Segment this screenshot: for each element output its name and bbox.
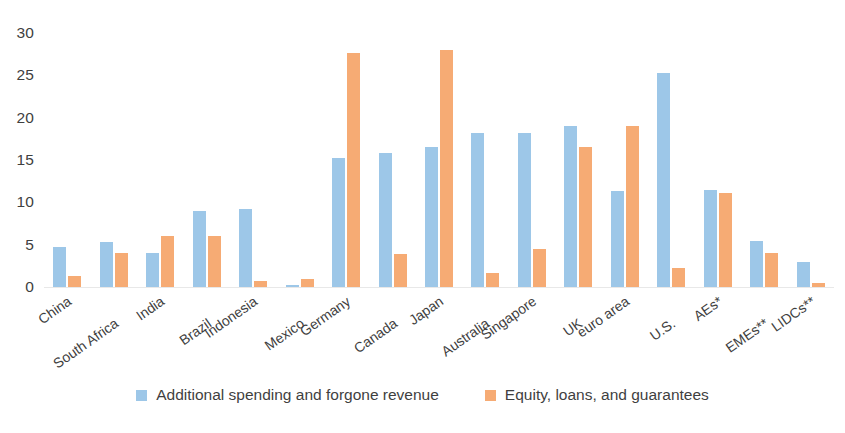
bar-chart: 051015202530 ChinaSouth AfricaIndiaBrazi… xyxy=(0,0,845,433)
bar-equity[interactable] xyxy=(301,279,314,287)
x-axis-label-text: U.S. xyxy=(647,315,678,344)
bar-spending[interactable] xyxy=(193,211,206,287)
legend-label: Additional spending and forgone revenue xyxy=(156,386,439,404)
bar-spending[interactable] xyxy=(750,241,763,287)
bar-group xyxy=(462,33,508,287)
y-axis-tick: 30 xyxy=(17,24,34,42)
y-axis: 051015202530 xyxy=(0,0,44,287)
x-axis-label-cell: euro area xyxy=(602,289,648,369)
bar-group xyxy=(648,33,694,287)
bar-group xyxy=(695,33,741,287)
bar-equity[interactable] xyxy=(533,249,546,287)
bar-spending[interactable] xyxy=(797,262,810,287)
bar-spending[interactable] xyxy=(239,209,252,287)
bar-equity[interactable] xyxy=(347,53,360,287)
bar-equity[interactable] xyxy=(208,236,221,287)
x-axis-label-cell: South Africa xyxy=(90,289,136,369)
bar-group xyxy=(90,33,136,287)
bar-equity[interactable] xyxy=(440,50,453,287)
bar-group xyxy=(509,33,555,287)
y-axis-tick: 15 xyxy=(17,151,34,169)
bar-spending[interactable] xyxy=(704,190,717,287)
bar-group xyxy=(276,33,322,287)
x-axis-label-cell: LIDCs** xyxy=(788,289,834,369)
bar-spending[interactable] xyxy=(611,191,624,287)
bar-groups xyxy=(44,33,834,287)
bar-group xyxy=(788,33,834,287)
y-axis-tick: 20 xyxy=(17,109,34,127)
bar-group xyxy=(369,33,415,287)
x-axis-label-text: China xyxy=(35,293,74,327)
bar-equity[interactable] xyxy=(765,253,778,287)
legend-label: Equity, loans, and guarantees xyxy=(505,386,709,404)
x-axis-label-text: AEs* xyxy=(690,293,725,324)
bar-group xyxy=(230,33,276,287)
y-axis-tick: 25 xyxy=(17,66,34,84)
bar-equity[interactable] xyxy=(626,126,639,287)
bar-spending[interactable] xyxy=(53,247,66,287)
y-axis-tick: 0 xyxy=(25,278,34,296)
x-axis-label-cell: Singapore xyxy=(509,289,555,369)
bar-equity[interactable] xyxy=(115,253,128,287)
legend-item[interactable]: Additional spending and forgone revenue xyxy=(136,386,439,404)
legend-item[interactable]: Equity, loans, and guarantees xyxy=(485,386,709,404)
legend-swatch-icon xyxy=(485,390,496,401)
bar-group xyxy=(137,33,183,287)
bar-spending[interactable] xyxy=(657,73,670,287)
legend-swatch-icon xyxy=(136,390,147,401)
bar-group xyxy=(602,33,648,287)
chart-legend: Additional spending and forgone revenueE… xyxy=(0,386,845,404)
x-axis-label-cell: U.S. xyxy=(648,289,694,369)
bar-equity[interactable] xyxy=(719,193,732,287)
bar-spending[interactable] xyxy=(471,133,484,287)
x-axis-label-cell: AEs* xyxy=(695,289,741,369)
bar-spending[interactable] xyxy=(518,133,531,287)
bar-group xyxy=(44,33,90,287)
y-axis-tick: 5 xyxy=(25,236,34,254)
bar-group xyxy=(555,33,601,287)
x-axis-label-cell: Indonesia xyxy=(230,289,276,369)
y-axis-tick: 10 xyxy=(17,193,34,211)
bar-spending[interactable] xyxy=(332,158,345,287)
bar-group xyxy=(416,33,462,287)
x-axis-labels: ChinaSouth AfricaIndiaBrazilIndonesiaMex… xyxy=(44,289,834,369)
bar-group xyxy=(183,33,229,287)
x-axis-label-text: India xyxy=(133,293,167,324)
x-axis-label-cell: Germany xyxy=(323,289,369,369)
bar-group xyxy=(323,33,369,287)
bar-group xyxy=(741,33,787,287)
bar-spending[interactable] xyxy=(425,147,438,287)
bar-equity[interactable] xyxy=(486,273,499,287)
x-axis-label-cell: India xyxy=(137,289,183,369)
x-axis-label-cell: Canada xyxy=(369,289,415,369)
x-axis-label-cell: Japan xyxy=(416,289,462,369)
bar-spending[interactable] xyxy=(100,242,113,287)
